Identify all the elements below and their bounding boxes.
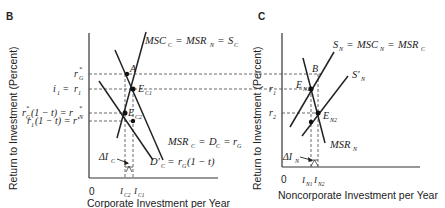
svg-text:N: N <box>294 158 300 164</box>
origin-b: 0 <box>89 186 95 197</box>
svg-text:C: C <box>111 158 116 164</box>
point-labels-b: A EC1 EC2 <box>127 63 152 120</box>
point-a <box>125 72 129 76</box>
svg-text:ΔI: ΔI <box>98 151 109 162</box>
curve-labels-c: SN = MSCN = MSRC S′N MSRN <box>329 39 426 152</box>
svg-text:E: E <box>127 107 134 118</box>
svg-text:1: 1 <box>57 90 60 96</box>
svg-text:N: N <box>352 146 358 152</box>
svg-text:C: C <box>191 143 196 149</box>
point-ec1 <box>131 87 136 92</box>
svg-text:A: A <box>129 63 137 74</box>
svg-text:=: = <box>347 39 353 50</box>
svg-text:C: C <box>161 163 166 169</box>
svg-text:N: N <box>379 46 385 52</box>
svg-text:*: * <box>79 66 82 72</box>
svg-text:ΔI: ΔI <box>282 151 293 162</box>
demand-curve-dc <box>115 50 163 160</box>
svg-text:E: E <box>137 83 144 94</box>
svg-text:C: C <box>234 42 239 48</box>
svg-text:1: 1 <box>78 90 81 96</box>
svg-text:C: C <box>216 143 221 149</box>
svg-text:(1 − t) = r′: (1 − t) = r′ <box>35 115 80 127</box>
svg-text:=: = <box>224 136 230 147</box>
svg-text:N: N <box>209 42 215 48</box>
svg-text:2: 2 <box>273 114 276 120</box>
svg-text:=: = <box>388 39 394 50</box>
svg-text:*: * <box>79 105 82 111</box>
svg-text:C1: C1 <box>145 90 152 96</box>
y-axis-label-c: Return to Investment (Percent) <box>251 46 263 190</box>
svg-text:=: = <box>218 35 224 46</box>
svg-text:=: = <box>168 156 174 167</box>
svg-text:MSC: MSC <box>356 39 379 50</box>
svg-text:1: 1 <box>31 122 34 128</box>
svg-text:N2: N2 <box>317 181 325 187</box>
svg-text:N1: N1 <box>302 86 310 92</box>
y-axis-label-b: Return to Investment (Percent) <box>7 46 19 190</box>
x-ticks-c: IN1 IN2 <box>301 175 325 187</box>
svg-text:G: G <box>237 143 242 149</box>
svg-text:MSR: MSR <box>397 39 419 50</box>
origin-c: 0 <box>281 174 287 185</box>
svg-text:N: N <box>360 76 366 82</box>
delta-in-annotation: ΔIN <box>282 151 318 166</box>
svg-text:(1 − t): (1 − t) <box>187 156 215 168</box>
diagram-canvas: B Return to Investment (Percent) rG* i1=… <box>0 0 445 208</box>
svg-text:=: = <box>199 136 205 147</box>
panel-c-label: C <box>258 11 265 22</box>
x-axis-label-b: Corporate Investment per Year <box>87 197 231 208</box>
panel-c: C Return to Investment (Percent) r1 r2 B… <box>251 11 438 201</box>
svg-text:N: N <box>338 46 344 52</box>
svg-text:N1: N1 <box>305 181 313 187</box>
svg-text:D′: D′ <box>149 156 161 167</box>
panel-b: B Return to Investment (Percent) rG* i1=… <box>6 11 322 208</box>
svg-text:*: * <box>26 105 29 111</box>
svg-text:MSR: MSR <box>329 139 351 150</box>
point-en2 <box>316 111 321 116</box>
point-n-shift <box>309 120 313 124</box>
svg-text:C: C <box>168 42 173 48</box>
svg-text:r: r <box>74 68 78 79</box>
svg-text:=: = <box>63 83 69 94</box>
y-ticks-c: r1 r2 <box>269 83 276 120</box>
svg-text:C2: C2 <box>135 114 142 120</box>
svg-text:S′: S′ <box>352 69 360 80</box>
svg-text:G: G <box>79 75 84 81</box>
supply-curve-sn-prime <box>302 76 348 136</box>
svg-text:E: E <box>322 110 329 121</box>
point-ec2 <box>123 111 128 116</box>
panel-b-label: B <box>6 11 13 22</box>
svg-text:=: = <box>176 35 182 46</box>
svg-text:E: E <box>295 79 302 90</box>
x-axis-label-c: Noncorporate Investment per Year <box>278 189 438 201</box>
svg-text:1: 1 <box>273 90 276 96</box>
y-ticks-b: rG* i1=r1 rG*(1 − t) = rN* r1(1 − t) = r… <box>22 66 84 128</box>
delta-ic-annotation: ΔIC <box>98 151 133 172</box>
svg-text:MSR: MSR <box>185 35 207 46</box>
svg-text:B: B <box>312 63 318 74</box>
svg-text:N2: N2 <box>329 117 337 123</box>
svg-text:MSC: MSC <box>144 35 167 46</box>
svg-text:MSR: MSR <box>167 136 189 147</box>
svg-text:C: C <box>421 46 426 52</box>
svg-text:i: i <box>53 83 56 94</box>
